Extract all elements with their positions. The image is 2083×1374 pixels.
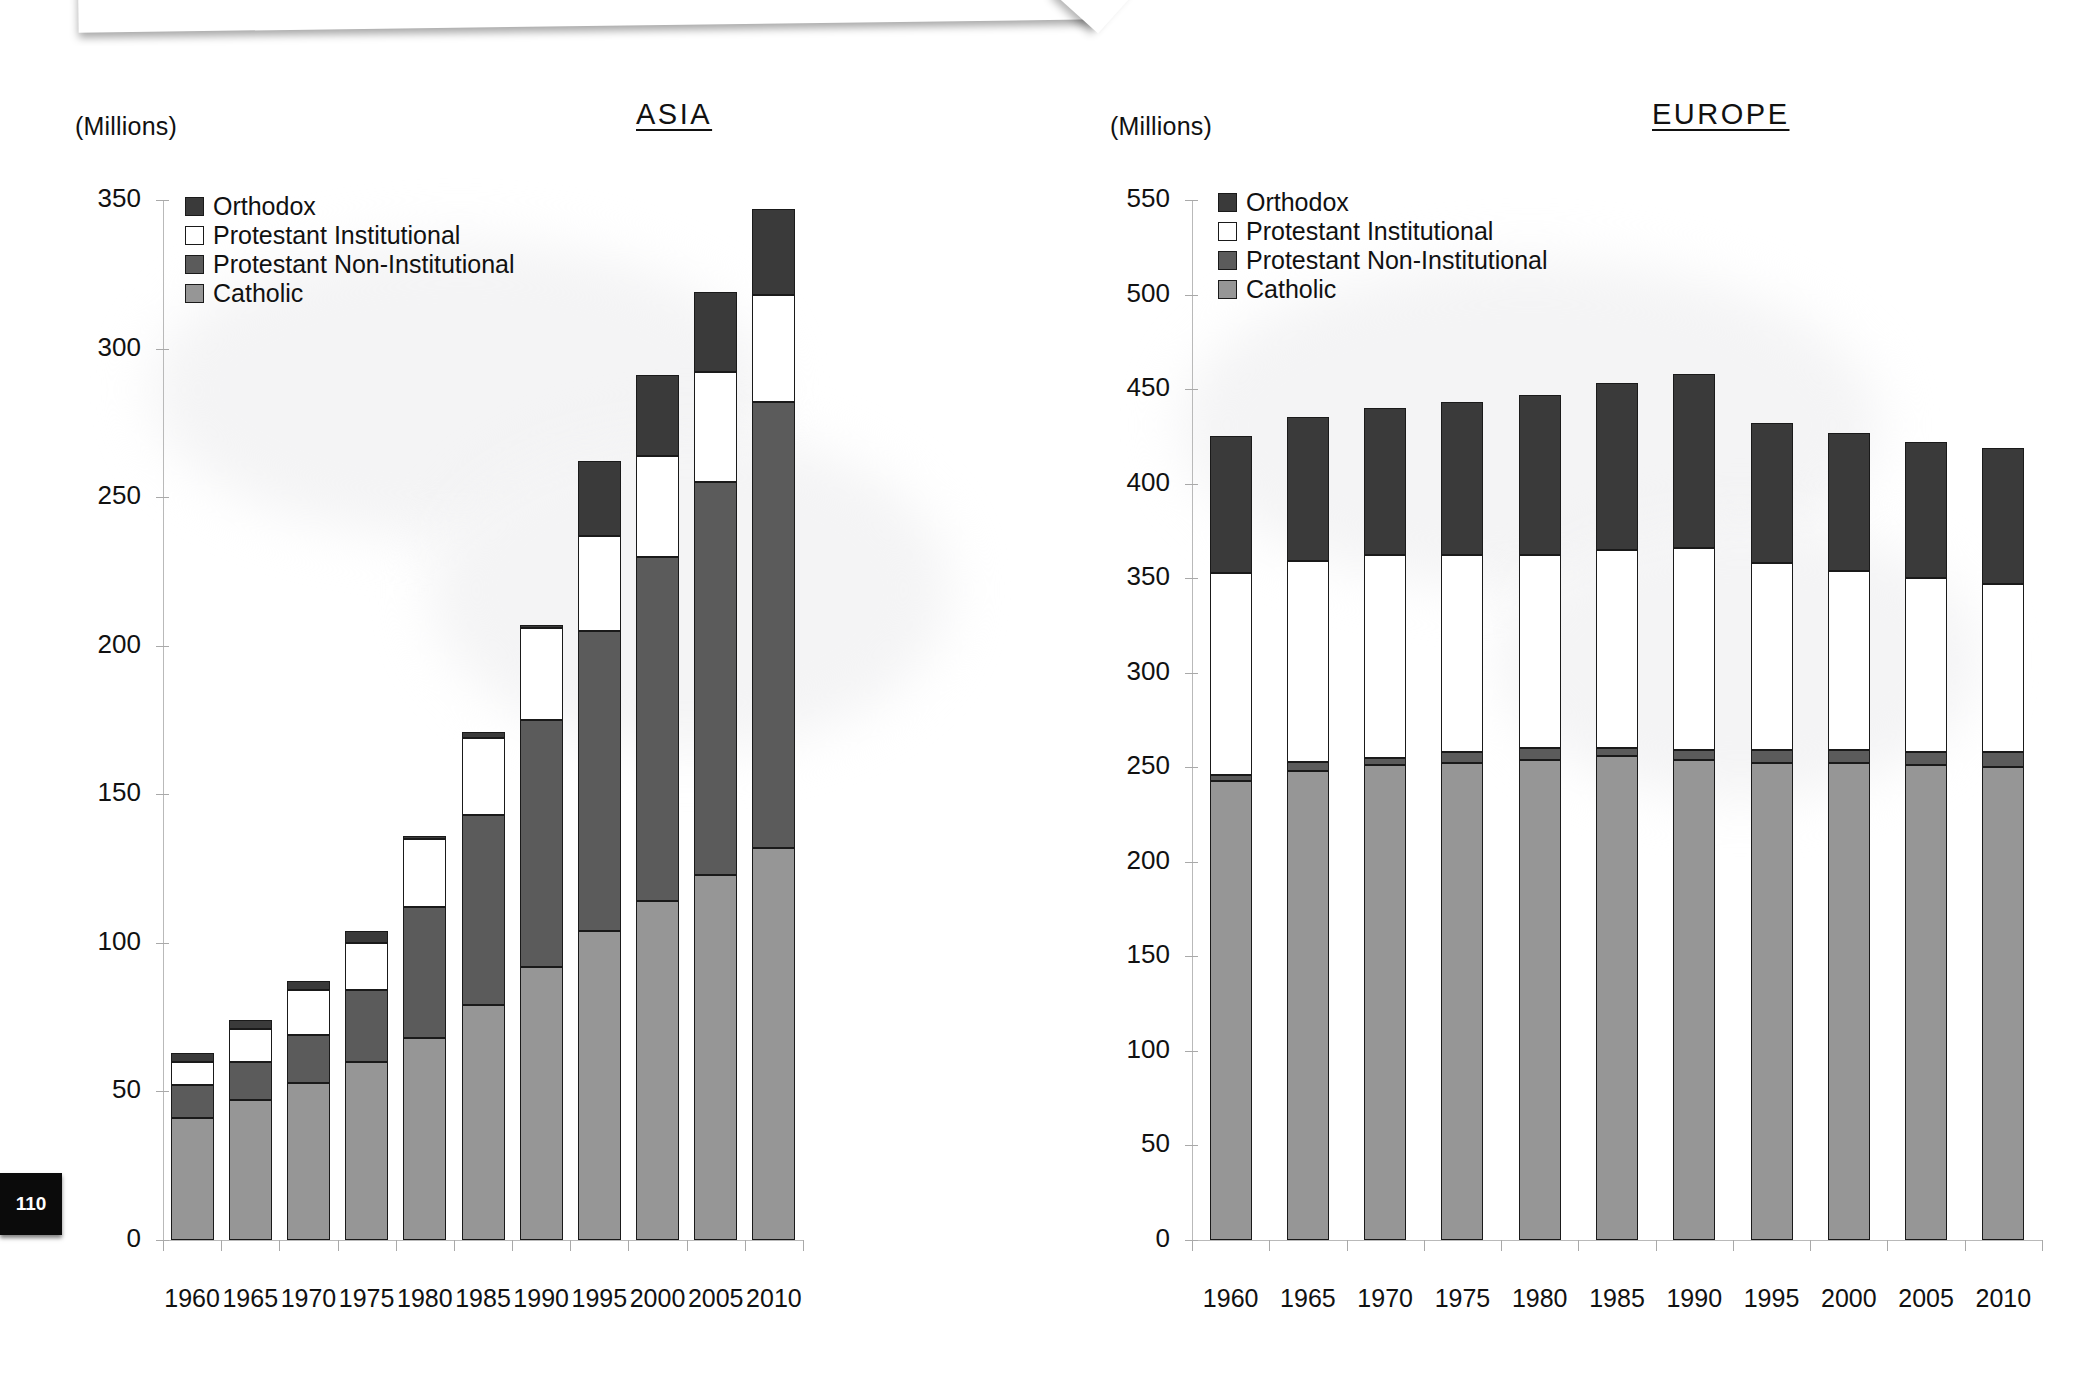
bar-segment-catholic [1751,763,1793,1240]
bar-segment-protestant-institutional [1364,555,1406,757]
chart-panel-asia: (Millions) ASIA 050100150200250300350196… [0,0,1040,1374]
chart-panel-europe: (Millions) EUROPE 0501001502002503003504… [1040,0,2083,1374]
bar-segment-catholic [1673,760,1715,1240]
y-axis-tick [156,646,169,647]
bar-1970 [287,200,330,1240]
y-axis-tick [156,349,169,350]
bar-segment-protestant-non-institutional [1364,758,1406,766]
bar-segment-protestant-non-institutional [1982,752,2024,767]
bar-segment-protestant-non-institutional [345,990,388,1061]
bar-segment-protestant-non-institutional [578,631,621,931]
bar-segment-catholic [229,1100,272,1240]
x-axis-tick [163,1240,164,1251]
y-axis-tick-label: 0 [1084,1223,1170,1254]
legend-label: Protestant Institutional [1246,217,1493,246]
legend-item-protestant-institutional: Protestant Institutional [1218,217,1548,246]
bar-segment-protestant-institutional [171,1062,214,1086]
bar-segment-orthodox [1519,395,1561,556]
legend-swatch-icon [185,226,204,245]
x-axis-tick [1269,1240,1270,1251]
bar-segment-orthodox [1982,448,2024,584]
y-axis-tick-label: 250 [55,480,141,511]
bar-segment-protestant-non-institutional [403,907,446,1038]
bar-segment-catholic [462,1005,505,1240]
bar-segment-orthodox [1287,417,1329,561]
bar-1980 [1519,200,1561,1240]
bar-1965 [229,200,272,1240]
bar-segment-protestant-institutional [1441,555,1483,752]
bar-segment-orthodox [229,1020,272,1029]
legend-swatch-icon [1218,251,1237,270]
legend-label: Protestant Non-Institutional [1246,246,1548,275]
bar-segment-catholic [636,901,679,1240]
bar-segment-orthodox [694,292,737,372]
legend-label: Catholic [213,279,303,308]
bar-2010 [1982,200,2024,1240]
bar-segment-catholic [1441,763,1483,1240]
y-axis-tick-label: 150 [1084,939,1170,970]
bar-1975 [1441,200,1483,1240]
bar-segment-protestant-institutional [287,990,330,1035]
bar-segment-catholic [171,1118,214,1240]
x-axis-tick [1578,1240,1579,1251]
legend-item-protestant-non-institutional: Protestant Non-Institutional [185,250,515,279]
legend-item-catholic: Catholic [1218,275,1548,304]
bar-segment-protestant-institutional [520,628,563,720]
y-axis-tick-label: 100 [55,926,141,957]
legend-item-orthodox: Orthodox [1218,188,1548,217]
bar-segment-protestant-non-institutional [1210,775,1252,781]
bar-1995 [578,200,621,1240]
bar-segment-protestant-institutional [1828,571,1870,751]
y-axis-tick-label: 400 [1084,467,1170,498]
bar-segment-orthodox [1751,423,1793,563]
bar-1960 [171,200,214,1240]
bar-segment-orthodox [1905,442,1947,578]
x-axis-tick [1887,1240,1888,1251]
y-axis-tick-label: 200 [55,629,141,660]
y-axis-line [163,200,164,1240]
x-axis-tick [1501,1240,1502,1251]
bar-segment-protestant-non-institutional [520,720,563,967]
legend-asia: OrthodoxProtestant InstitutionalProtesta… [185,192,515,308]
x-axis-tick [512,1240,513,1251]
y-axis-units-label-asia: (Millions) [75,112,177,141]
legend-swatch-icon [185,284,204,303]
legend-item-protestant-non-institutional: Protestant Non-Institutional [1218,246,1548,275]
x-axis-tick [1965,1240,1966,1251]
bar-segment-protestant-non-institutional [287,1035,330,1083]
bar-segment-protestant-non-institutional [1596,748,1638,756]
x-axis-tick [1424,1240,1425,1251]
x-axis-tick [454,1240,455,1251]
y-axis-tick [156,1091,169,1092]
bar-segment-catholic [1828,763,1870,1240]
chart-title-asia: ASIA [636,98,712,131]
bar-1965 [1287,200,1329,1240]
y-axis-tick [1185,956,1198,957]
bar-segment-orthodox [1673,374,1715,548]
bar-segment-protestant-non-institutional [636,557,679,902]
y-axis-tick-label: 0 [55,1223,141,1254]
bar-segment-orthodox [345,931,388,943]
y-axis-tick [1185,1051,1198,1052]
bar-2000 [1828,200,1870,1240]
bar-segment-orthodox [287,981,330,990]
y-axis-tick [1185,862,1198,863]
bar-segment-protestant-non-institutional [171,1085,214,1118]
bar-segment-orthodox [403,836,446,839]
bar-segment-catholic [520,967,563,1240]
y-axis-tick [1185,767,1198,768]
x-axis-tick [803,1240,804,1251]
x-axis-tick [221,1240,222,1251]
bar-2010 [752,200,795,1240]
bar-segment-protestant-non-institutional [1441,752,1483,763]
bar-segment-orthodox [462,732,505,738]
bar-segment-orthodox [752,209,795,295]
y-axis-units-label-europe: (Millions) [1110,112,1212,141]
bar-segment-catholic [1210,781,1252,1240]
bar-1985 [1596,200,1638,1240]
bar-segment-protestant-non-institutional [1287,762,1329,771]
y-axis-tick [156,200,169,201]
y-axis-tick-label: 50 [55,1074,141,1105]
bar-segment-catholic [1982,767,2024,1240]
bar-segment-protestant-institutional [752,295,795,402]
